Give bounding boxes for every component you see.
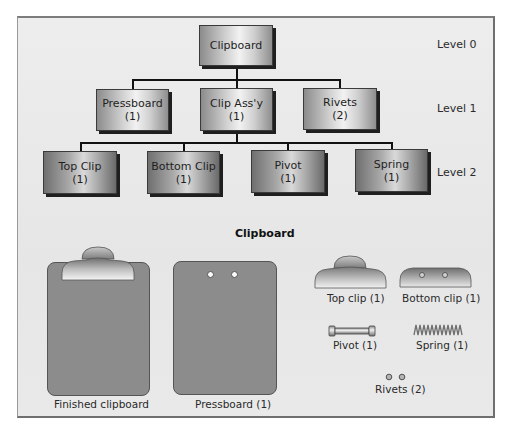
- node-label: Bottom Clip: [151, 160, 216, 173]
- pivot-icon: [328, 325, 376, 337]
- finished-clipboard-caption: Finished clipboard: [54, 398, 149, 410]
- level-0-label: Level 0: [437, 38, 477, 51]
- pressboard-hole-right: [231, 271, 238, 278]
- connector-pressboard: [132, 79, 134, 89]
- top-clip-caption: Top clip (1): [327, 292, 385, 304]
- node-qty: (1): [125, 110, 141, 123]
- node-label: Pressboard: [102, 97, 163, 110]
- illustration-title: Clipboard: [235, 227, 295, 240]
- connector-level2-bus: [80, 142, 393, 144]
- node-bottom-clip: Bottom Clip (1): [147, 151, 220, 194]
- pressboard-caption: Pressboard (1): [195, 398, 271, 410]
- node-qty: (1): [229, 110, 245, 123]
- rivets-icon: [385, 373, 407, 381]
- spring-caption: Spring (1): [416, 339, 468, 351]
- node-label: Pivot: [274, 159, 301, 172]
- node-qty: (2): [332, 109, 348, 122]
- node-clipboard: Clipboard: [199, 25, 273, 66]
- node-pivot: Pivot (1): [251, 150, 325, 193]
- pressboard-board: [173, 261, 277, 395]
- node-spring: Spring (1): [355, 149, 428, 192]
- node-clip-assy: Clip Ass'y (1): [200, 88, 273, 131]
- node-label: Clip Ass'y: [210, 97, 263, 110]
- connector-bottomclip: [183, 142, 185, 151]
- level-2-label: Level 2: [437, 166, 477, 179]
- bottom-clip-icon: [399, 266, 473, 288]
- finished-clipboard-board: [47, 262, 150, 396]
- bottom-clip-caption: Bottom clip (1): [402, 292, 480, 304]
- spring-icon: [413, 324, 463, 336]
- pivot-caption: Pivot (1): [333, 339, 377, 351]
- finished-clipboard-clip-icon: [60, 245, 136, 281]
- rivets-caption: Rivets (2): [375, 383, 426, 395]
- connector-topclip: [80, 142, 82, 151]
- pressboard-hole-left: [207, 271, 214, 278]
- node-qty: (1): [176, 173, 192, 186]
- node-label: Spring: [374, 158, 410, 171]
- connector-root-stem: [236, 66, 238, 80]
- node-label: Top Clip: [59, 160, 102, 173]
- node-label: Clipboard: [210, 39, 263, 52]
- node-rivets: Rivets (2): [303, 88, 377, 130]
- top-clip-icon: [314, 254, 388, 289]
- node-qty: (1): [384, 171, 400, 184]
- level-1-label: Level 1: [437, 102, 477, 115]
- node-qty: (1): [280, 172, 296, 185]
- node-qty: (1): [72, 173, 88, 186]
- node-label: Rivets: [323, 96, 357, 109]
- node-top-clip: Top Clip (1): [43, 151, 117, 194]
- node-pressboard: Pressboard (1): [96, 89, 169, 131]
